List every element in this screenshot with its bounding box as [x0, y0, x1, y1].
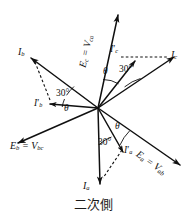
label-ic-prime: I′c — [110, 45, 118, 55]
figure-container: Ec = Vca I′c Ic Ib I′b Eb = Vbc Ea = Vab… — [0, 0, 186, 221]
label-ia: Ia — [83, 181, 90, 192]
label-ib-subscript: b — [21, 50, 24, 57]
angle-theta-bottom: θ — [115, 122, 120, 132]
dashed-iaprime-to-ia — [103, 150, 122, 178]
arc-theta-bottom — [120, 131, 130, 145]
vector-eb — [18, 108, 98, 143]
label-eb: Eb = Vbc — [10, 141, 44, 152]
label-eb-eq-subscript: bc — [37, 144, 43, 151]
label-eb-equals: = V — [19, 140, 37, 151]
vector-ec — [98, 15, 118, 108]
label-ib-prime-subscript: b — [39, 101, 42, 108]
phasor-diagram-canvas — [0, 0, 186, 221]
figure-caption: 二次側 — [0, 198, 186, 211]
label-ec-equals: = V — [79, 40, 93, 60]
angle-theta-top: θ — [103, 67, 108, 77]
angle-theta-left: θ — [64, 104, 69, 114]
label-ia-subscript: a — [86, 184, 89, 191]
label-ec-eq-subscript: ca — [87, 35, 95, 43]
dashed-ibprime-to-ib — [35, 62, 50, 100]
angle-30-top: 30° — [119, 65, 132, 75]
label-ic: Ic — [171, 50, 177, 61]
label-ib: Ib — [18, 47, 25, 58]
label-ia-prime: I′a — [124, 146, 132, 156]
angle-30-left: 30° — [56, 89, 69, 99]
angle-30-bottom: 30° — [98, 138, 111, 148]
label-ia-prime-subscript: a — [129, 148, 132, 155]
arc-theta-top — [103, 80, 118, 84]
vector-ib-prime — [50, 104, 98, 108]
label-ic-subscript: c — [174, 53, 177, 60]
label-ic-prime-subscript: c — [115, 47, 118, 54]
vector-ic — [98, 57, 174, 108]
label-ib-prime: I′b — [34, 99, 42, 109]
